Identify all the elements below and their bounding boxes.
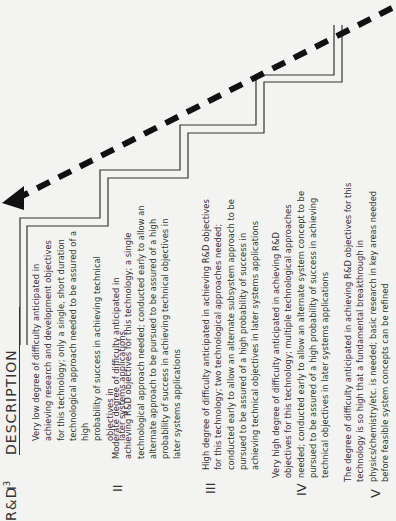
text-line: needed; conducted early to allow an alte… [295,118,307,478]
text-line: for this technology; two technological a… [212,140,224,470]
text-line: achieving research and development objec… [42,211,54,441]
text-line: Very high degree of difficulty anticipat… [270,118,282,478]
text-line: alternate approach to be pursued to be a… [147,179,159,459]
text-line: physics/chemistry/etc. is needed; basic … [367,82,379,482]
text-line: technological approach needed; conducted… [135,179,147,459]
level-numeral-3: III [203,482,218,494]
level-numeral-1: I [4,486,19,490]
text-line: objectives for this technology; multiple… [282,118,294,478]
text-line: later systems applications [171,179,183,459]
rd-label: R&D [3,487,19,521]
text-line: for this technology; only a single, shor… [55,211,67,441]
description-heading: DESCRIPTION [3,307,20,455]
level-description-5: The degree of difficulty anticipated in … [342,82,391,482]
text-line: technology is so high that a fundamental… [354,82,366,482]
text-line: conducted early to allow an alternate su… [225,140,237,470]
text-line: pursued to be assured of a high probabil… [237,140,249,470]
text-line: Very low degree of difficulty anticipate… [30,211,42,441]
text-line: before feasible system concepts can be r… [379,82,391,482]
arrowhead-icon [2,186,24,210]
text-line: The degree of difficulty anticipated in … [342,82,354,482]
text-line: pursued to be assured of a high probabil… [307,118,319,478]
text-line: Moderate degree of difficulty anticipate… [110,179,122,459]
level-description-4: Very high degree of difficulty anticipat… [270,118,331,478]
text-line: High degree of difficulty anticipated in… [200,140,212,470]
level-numeral-5: V [368,489,383,498]
text-line: achieving technical objectives in later … [249,140,261,470]
level-numeral-2: II [110,484,125,492]
level-description-3: High degree of difficulty anticipated in… [200,140,261,470]
text-line: probability of success in achieving tech… [159,179,171,459]
text-line: technical objectives in later systems ap… [319,118,331,478]
text-line: achieving R&D objectives for this techno… [122,179,134,459]
text-line: technological approach needed to be assu… [67,211,92,441]
level-description-2: Moderate degree of difficulty anticipate… [110,179,184,459]
level-numeral-4: IV [294,483,309,496]
